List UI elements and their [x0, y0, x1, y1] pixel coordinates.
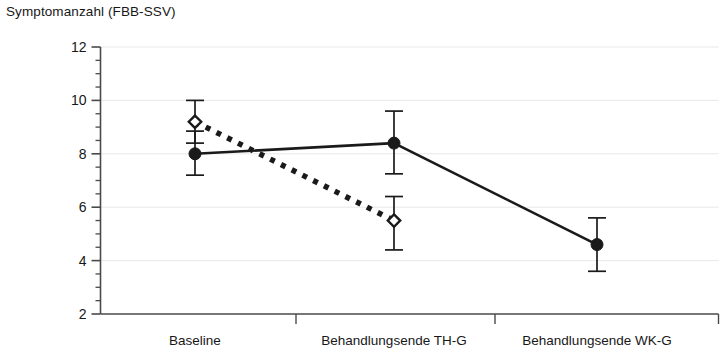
y-axis-tick-label: 6 — [79, 199, 87, 215]
series-line-solid — [195, 143, 597, 244]
y-axis-tick-label: 8 — [79, 146, 87, 162]
data-point-open-diamond — [189, 116, 201, 128]
x-axis — [101, 314, 719, 324]
data-point-filled-circle — [189, 148, 201, 160]
data-point-filled-circle — [388, 137, 400, 149]
x-axis-category-label: Baseline — [169, 333, 221, 348]
y-axis-tick-label: 2 — [79, 306, 87, 322]
y-axis: 24681012 — [71, 39, 101, 322]
series-line-dotted — [195, 122, 394, 221]
y-axis-tick-label: 10 — [71, 92, 87, 108]
y-axis-tick-label: 12 — [71, 39, 87, 55]
y-axis-tick-label: 4 — [79, 253, 87, 269]
chart-plot-area: 24681012 BaselineBehandlungsende TH-GBeh… — [0, 0, 721, 362]
data-series-group — [186, 100, 606, 271]
x-axis-category-label: Behandlungsende WK-G — [522, 333, 671, 348]
category-labels-group: BaselineBehandlungsende TH-GBehandlungse… — [169, 333, 672, 348]
x-axis-category-label: Behandlungsende TH-G — [321, 333, 466, 348]
chart-container: Symptomanzahl (FBB-SSV) 24681012 Baselin… — [0, 0, 721, 362]
data-point-filled-circle — [591, 239, 603, 251]
